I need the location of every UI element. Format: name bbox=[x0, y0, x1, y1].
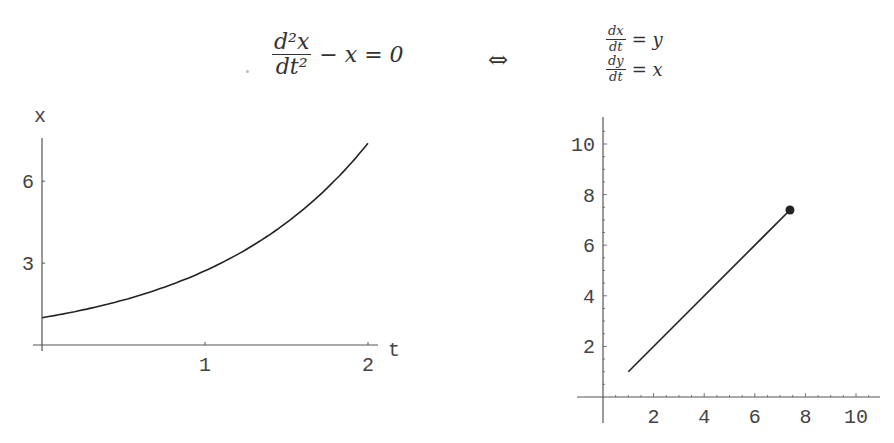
x-tick-label: 4 bbox=[698, 406, 710, 429]
phase-trajectory bbox=[628, 210, 790, 372]
x-axis-label: t bbox=[388, 339, 400, 362]
solution-curve bbox=[42, 143, 368, 317]
x-tick-label: 2 bbox=[648, 406, 660, 429]
trajectory-endpoint-marker bbox=[785, 206, 794, 215]
y-tick-label: 8 bbox=[583, 185, 595, 208]
y-tick-label: 3 bbox=[22, 253, 34, 276]
x-tick-label: 6 bbox=[749, 406, 761, 429]
y-tick-label: 6 bbox=[22, 171, 34, 194]
time-series-chart: t x 1236 bbox=[22, 105, 400, 377]
y-tick-label: 2 bbox=[583, 336, 595, 359]
right-axes bbox=[577, 117, 880, 423]
x-tick-label: 1 bbox=[199, 354, 211, 377]
y-tick-label: 4 bbox=[583, 286, 595, 309]
left-axes bbox=[33, 138, 378, 351]
charts-canvas: t x 1236 246810246810 bbox=[0, 0, 894, 443]
y-tick-label: 6 bbox=[583, 235, 595, 258]
y-axis-label: x bbox=[34, 105, 46, 128]
y-tick-label: 10 bbox=[571, 134, 595, 157]
x-tick-label: 8 bbox=[799, 406, 811, 429]
phase-plane-chart: 246810246810 bbox=[571, 117, 880, 429]
x-tick-label: 2 bbox=[362, 354, 374, 377]
x-tick-label: 10 bbox=[844, 406, 868, 429]
